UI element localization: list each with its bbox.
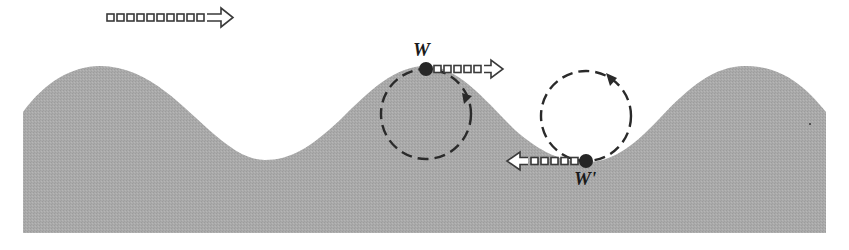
particle-w-prime-dot (579, 154, 593, 168)
propagation-arrow-icon (107, 8, 233, 27)
speck (809, 123, 811, 125)
particle-w-prime-label: W' (574, 169, 596, 188)
water-wave-body (23, 66, 826, 233)
particle-w-label: W (413, 40, 430, 59)
trough-orbit (541, 71, 631, 161)
particle-w-dot (419, 62, 433, 76)
wave-orbit-diagram (0, 0, 849, 250)
clockwise-arrowhead-icon (606, 73, 617, 86)
